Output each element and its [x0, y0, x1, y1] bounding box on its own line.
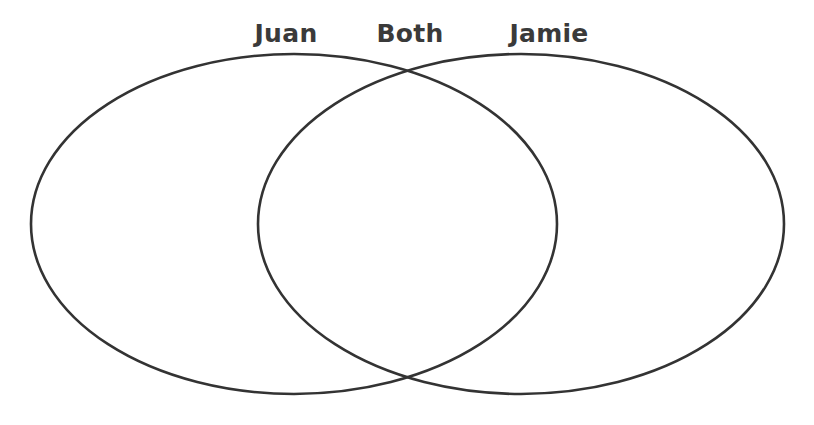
- diagram-background: [0, 0, 814, 425]
- venn-label-right: Jamie: [509, 21, 588, 46]
- venn-diagram-canvas: [0, 0, 814, 425]
- venn-diagram: Juan Both Jamie: [0, 0, 814, 425]
- venn-label-left: Juan: [255, 21, 318, 46]
- venn-label-overlap: Both: [376, 21, 443, 46]
